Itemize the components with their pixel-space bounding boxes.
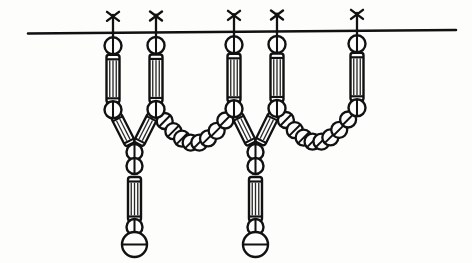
top-ring-bead (226, 36, 243, 53)
pendant-terminal-bead (122, 232, 147, 257)
tube-lower-ring-bead (226, 100, 243, 117)
pendant-tube-bead (128, 177, 141, 221)
vertical-tube-bead (150, 54, 163, 102)
tube-lower-ring-bead (269, 100, 286, 117)
pendant-tube-bead (249, 177, 262, 221)
pendant-ring-bead (127, 158, 143, 174)
pendant-terminal-bead (243, 232, 268, 257)
beaded-festoon-drawing (0, 0, 472, 263)
top-ring-bead (349, 35, 366, 52)
tube-lower-ring-bead (148, 101, 165, 118)
vertical-tube-bead (271, 53, 284, 101)
tube-lower-ring-bead (349, 99, 366, 116)
vertical-tube-bead (351, 53, 364, 101)
vertical-tube-bead (228, 54, 241, 102)
tube-lower-ring-bead (105, 101, 122, 118)
top-ring-bead (148, 37, 165, 54)
top-ring-bead (105, 37, 122, 54)
top-ring-bead (269, 36, 286, 53)
pendant-ring-bead (248, 158, 264, 174)
vertical-tube-bead (107, 55, 120, 103)
figure-canvas: Beaded festoon / necklace construction l… (0, 0, 472, 263)
